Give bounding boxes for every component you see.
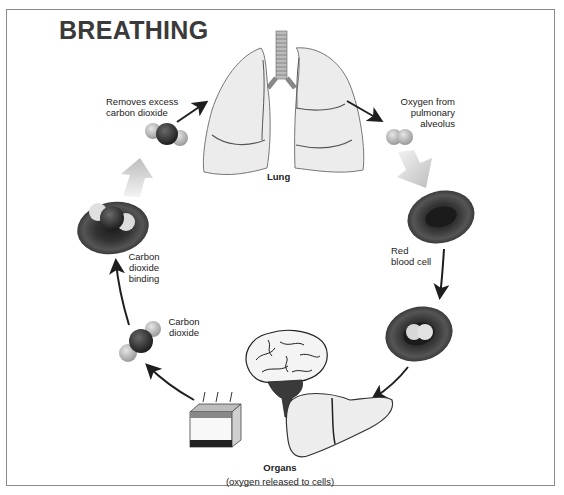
- label-line: Carbon: [164, 316, 204, 327]
- liver-icon: [286, 394, 392, 457]
- label-line: Oxygen from: [378, 96, 455, 107]
- arrow-to-lung: [177, 103, 205, 122]
- label-co2-binding: Carbon dioxide binding: [124, 251, 164, 284]
- carbon-dioxide-molecule-icon: [145, 123, 188, 146]
- arrow-from-skin: [148, 366, 194, 400]
- label-line: dioxide: [124, 262, 164, 273]
- label-line: pulmonary: [378, 107, 455, 118]
- label-line: Red: [391, 245, 431, 256]
- label-organs-sub: (oxygen released to cells): [190, 476, 370, 487]
- lung-icon: [203, 31, 363, 175]
- label-line: Removes excess: [106, 96, 178, 107]
- breathing-cycle-illustration: [0, 0, 564, 495]
- grey-arrow-down: [397, 150, 432, 188]
- label-organs: Organs: [200, 462, 360, 473]
- label-line: dioxide: [164, 327, 204, 338]
- arrow-to-liver: [374, 367, 408, 398]
- oxygen-molecule-icon: [386, 129, 413, 145]
- oxygenated-red-blood-cell-icon: [379, 299, 459, 369]
- carbon-dioxide-molecule-icon: [119, 321, 161, 362]
- arrow-down-rbc: [440, 249, 444, 296]
- label-red-blood-cell: Red blood cell: [391, 245, 431, 267]
- label-lung: Lung: [267, 171, 290, 182]
- label-line: carbon dioxide: [106, 107, 178, 118]
- label-line: blood cell: [391, 256, 431, 267]
- label-line: Carbon: [124, 251, 164, 262]
- diagram-title: BREATHING: [59, 16, 208, 45]
- skin-tissue-icon: [190, 392, 241, 447]
- label-line: alveolus: [378, 118, 455, 129]
- label-co2: Carbon dioxide: [164, 316, 204, 338]
- label-removes-co2: Removes excess carbon dioxide: [106, 96, 178, 118]
- red-blood-cell-icon: [401, 183, 480, 251]
- label-oxygen: Oxygen from pulmonary alveolus: [378, 96, 455, 129]
- label-line: binding: [124, 273, 164, 284]
- grey-arrow-up: [121, 158, 153, 197]
